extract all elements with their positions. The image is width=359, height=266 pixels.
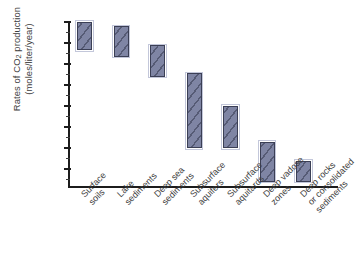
y-axis-tick-major <box>64 63 71 65</box>
y-axis-tick-minor <box>66 116 70 117</box>
y-axis-title-subscript: 2 <box>14 54 23 58</box>
y-axis-tick-major <box>64 42 71 44</box>
y-axis-tick-minor <box>66 95 70 96</box>
y-axis-tick-minor <box>66 137 70 138</box>
y-axis-title-part2: production <box>11 7 22 55</box>
y-axis-tick-major <box>64 84 71 86</box>
y-axis-tick-major <box>64 21 71 23</box>
y-axis-tick-major <box>64 105 71 107</box>
range-bar[interactable] <box>223 106 238 148</box>
y-axis-title-units: (moles/liter/year) <box>23 0 35 139</box>
y-axis-tick-major <box>64 147 71 149</box>
range-bar[interactable] <box>187 73 202 148</box>
range-bar[interactable] <box>77 22 92 50</box>
y-axis-tick-minor <box>66 74 70 75</box>
y-axis-title-part1: Rates of CO <box>11 58 22 111</box>
y-axis-title: Rates of CO2 production (moles/liter/yea… <box>11 0 45 139</box>
y-axis-tick-major <box>64 168 71 170</box>
y-axis-tick-minor <box>66 158 70 159</box>
y-axis-tick-minor <box>66 179 70 180</box>
y-axis-tick-major <box>64 126 71 128</box>
y-axis-tick-minor <box>66 53 70 54</box>
y-axis-tick-minor <box>66 32 70 33</box>
range-bar[interactable] <box>114 26 129 56</box>
range-bar[interactable] <box>150 45 165 77</box>
